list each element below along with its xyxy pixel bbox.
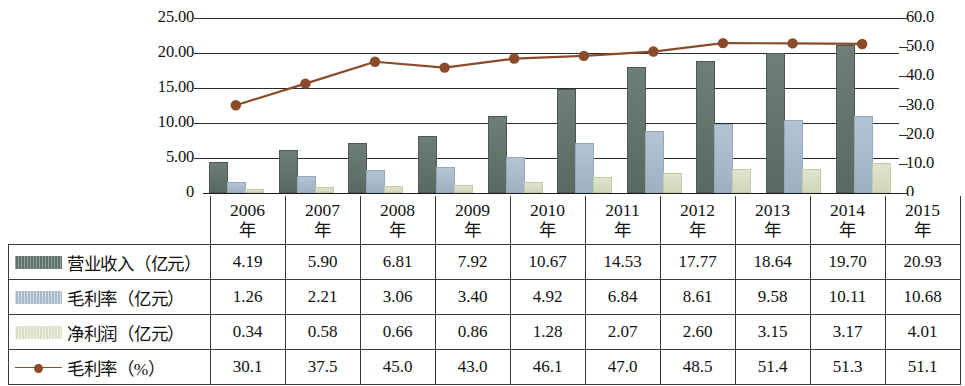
table-cell: 7.92	[435, 245, 510, 280]
legend-cell: 毛利率（%）	[9, 350, 211, 385]
left-axis-tick-label: 20.00	[126, 44, 194, 60]
table-header-row: 2006年2007年2008年2009年2010年2011年2012年2013年…	[9, 196, 961, 245]
table-cell: 51.1	[885, 350, 960, 385]
table-header-year: 2013年	[735, 196, 810, 245]
table-cell: 10.11	[810, 280, 885, 315]
year-label-line: 年	[886, 220, 960, 240]
year-label-line: 2008	[361, 200, 435, 220]
table-cell: 3.06	[360, 280, 435, 315]
table-header-year: 2015年	[885, 196, 960, 245]
left-axis-tick-label: 10.00	[126, 114, 194, 130]
year-label-line: 年	[736, 220, 810, 240]
right-axis-tick	[899, 193, 908, 194]
left-axis-tick	[194, 123, 203, 124]
gridline	[203, 193, 899, 194]
year-label-line: 2010	[511, 200, 585, 220]
data-table-wrapper: 2006年2007年2008年2009年2010年2011年2012年2013年…	[8, 196, 946, 385]
year-label-line: 年	[361, 220, 435, 240]
table-header-year: 2006年	[210, 196, 285, 245]
year-label-line: 年	[661, 220, 735, 240]
line-marker: 2008年: 45.0	[370, 57, 380, 67]
year-label-line: 2009	[436, 200, 510, 220]
year-label-line: 2014	[811, 200, 885, 220]
table-cell: 46.1	[510, 350, 585, 385]
legend-swatch-net-icon	[15, 326, 62, 339]
year-label-line: 年	[436, 220, 510, 240]
line-marker: 2012年: 48.5	[648, 46, 658, 56]
right-axis-tick	[899, 18, 908, 19]
line-path	[236, 43, 862, 105]
table-row: 净利润（亿元）0.340.580.660.861.282.072.603.153…	[9, 315, 961, 350]
table-header-year: 2012年	[660, 196, 735, 245]
year-label-line: 2015	[886, 200, 960, 220]
table-cell: 2.60	[660, 315, 735, 350]
right-axis-tick	[899, 106, 908, 107]
table-cell: 51.4	[735, 350, 810, 385]
table-cell: 19.70	[810, 245, 885, 280]
line-marker: 2010年: 46.1	[509, 53, 519, 63]
table-cell: 20.93	[885, 245, 960, 280]
line-marker: 2014年: 51.3	[787, 38, 797, 48]
table-cell: 0.66	[360, 315, 435, 350]
table-cell: 9.58	[735, 280, 810, 315]
line-marker: 2007年: 37.5	[300, 78, 310, 88]
legend-label: 毛利率（亿元）	[67, 285, 184, 310]
table-cell: 3.40	[435, 280, 510, 315]
table-cell: 4.01	[885, 315, 960, 350]
table-cell: 10.68	[885, 280, 960, 315]
left-axis-tick	[194, 158, 203, 159]
table-header-year: 2009年	[435, 196, 510, 245]
table-header-year: 2008年	[360, 196, 435, 245]
line-marker: 2015年: 51.1	[857, 39, 867, 49]
right-axis-tick-label: 20.0	[906, 126, 965, 142]
year-label-line: 2006	[211, 200, 285, 220]
combo-chart: 05.0010.0015.0020.0025.00 010.020.030.04…	[0, 0, 954, 200]
legend-swatch-rev-icon	[15, 256, 62, 269]
table-cell: 0.34	[210, 315, 285, 350]
legend-row: 毛利率（亿元）	[15, 285, 210, 310]
right-axis-tick	[899, 135, 908, 136]
table-cell: 48.5	[660, 350, 735, 385]
table-header-year: 2007年	[285, 196, 360, 245]
line-marker: 2006年: 30.1	[231, 100, 241, 110]
table-cell: 30.1	[210, 350, 285, 385]
left-axis-tick-label: 15.00	[126, 79, 194, 95]
year-label-line: 2011	[586, 200, 660, 220]
table-cell: 47.0	[585, 350, 660, 385]
table-cell: 18.64	[735, 245, 810, 280]
table-cell: 6.84	[585, 280, 660, 315]
year-label-line: 年	[286, 220, 360, 240]
legend-label: 营业收入（亿元）	[67, 250, 201, 275]
right-axis-tick	[899, 47, 908, 48]
right-axis-tick-label: 60.0	[906, 9, 965, 25]
table-cell: 1.28	[510, 315, 585, 350]
table-cell: 0.86	[435, 315, 510, 350]
right-axis-tick-label: 50.0	[906, 38, 965, 54]
line-marker: 2011年: 47.0	[579, 51, 589, 61]
year-label-line: 年	[211, 220, 285, 240]
table-cell: 0.58	[285, 315, 360, 350]
line-marker: 2013年: 51.4	[718, 38, 728, 48]
table-cell: 4.92	[510, 280, 585, 315]
table-cell: 43.0	[435, 350, 510, 385]
gross-margin-line-series: 2006年: 30.12007年: 37.52008年: 45.02009年: …	[203, 18, 899, 193]
table-row: 营业收入（亿元）4.195.906.817.9210.6714.5317.771…	[9, 245, 961, 280]
data-table: 2006年2007年2008年2009年2010年2011年2012年2013年…	[8, 196, 961, 385]
plot-area: 2006年: 30.12007年: 37.52008年: 45.02009年: …	[203, 18, 899, 193]
legend-row: 毛利率（%）	[15, 355, 210, 380]
year-label-line: 2013	[736, 200, 810, 220]
year-label-line: 2007	[286, 200, 360, 220]
table-header-year: 2010年	[510, 196, 585, 245]
right-axis-tick-label: 30.0	[906, 97, 965, 113]
table-cell: 1.26	[210, 280, 285, 315]
table-corner-cell	[9, 196, 211, 245]
table-header-year: 2014年	[810, 196, 885, 245]
left-axis-tick	[194, 18, 203, 19]
right-axis-tick	[899, 164, 908, 165]
table-cell: 51.3	[810, 350, 885, 385]
table-cell: 4.19	[210, 245, 285, 280]
table-cell: 10.67	[510, 245, 585, 280]
left-axis-tick	[194, 88, 203, 89]
right-axis-tick-label: 10.0	[906, 155, 965, 171]
